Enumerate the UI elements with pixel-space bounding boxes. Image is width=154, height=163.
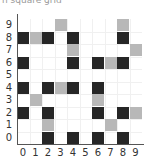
grid-cell-gray: [55, 82, 67, 94]
x-label: 0: [17, 147, 29, 159]
y-label: 1: [4, 119, 14, 131]
y-label: 7: [4, 44, 14, 56]
grid-cell-gray: [130, 107, 142, 119]
x-label: 6: [92, 147, 104, 159]
y-label: 3: [4, 94, 14, 106]
grid-cell-gray: [55, 19, 67, 31]
y-label: 0: [4, 132, 14, 144]
grid-cell-black: [17, 32, 29, 44]
grid-cell-black: [67, 57, 79, 69]
grid-cell-black: [117, 107, 129, 119]
gridline-horizontal: [17, 119, 142, 120]
grid-cell-black: [42, 107, 54, 119]
grid-cell-black: [17, 82, 29, 94]
caption: n square grid: [2, 0, 62, 5]
grid-cell-gray: [105, 119, 117, 131]
grid-cell-black: [42, 32, 54, 44]
grid-cell-black: [117, 57, 129, 69]
grid-cell-gray: [105, 57, 117, 69]
x-label: 7: [105, 147, 117, 159]
gridline-horizontal: [17, 82, 142, 83]
grid-cell-gray: [30, 94, 42, 106]
y-label: 4: [4, 82, 14, 94]
grid-cell-black: [67, 82, 79, 94]
x-label: 8: [117, 147, 129, 159]
grid-cell-gray: [130, 44, 142, 56]
grid-cell-black: [42, 132, 54, 144]
y-label: 2: [4, 107, 14, 119]
grid-cell-black: [17, 57, 29, 69]
grid-cell-black: [117, 132, 129, 144]
grid-cell-black: [92, 82, 104, 94]
x-label: 5: [80, 147, 92, 159]
grid-cell-black: [92, 107, 104, 119]
x-axis-line: [17, 144, 144, 145]
grid-cell-black: [117, 32, 129, 44]
x-label: 3: [55, 147, 67, 159]
grid-cell-black: [67, 32, 79, 44]
grid-cell-black: [67, 132, 79, 144]
grid-cell-black: [92, 57, 104, 69]
x-label: 9: [130, 147, 142, 159]
gridline-horizontal: [17, 44, 142, 45]
grid-cell-gray: [42, 119, 54, 131]
x-label: 2: [42, 147, 54, 159]
x-label: 4: [67, 147, 79, 159]
grid-cell-gray: [67, 44, 79, 56]
y-label: 6: [4, 57, 14, 69]
y-axis-line: [17, 14, 18, 145]
y-label: 9: [4, 19, 14, 31]
grid-cell-black: [17, 107, 29, 119]
grid-cell-black: [42, 82, 54, 94]
gridline-horizontal: [17, 69, 142, 70]
y-label: 8: [4, 32, 14, 44]
x-label: 1: [30, 147, 42, 159]
grid-cell-gray: [92, 94, 104, 106]
square-grid: [17, 19, 142, 144]
grid-cell-black: [92, 132, 104, 144]
grid-cell-gray: [30, 32, 42, 44]
y-label: 5: [4, 69, 14, 81]
grid-cell-gray: [117, 19, 129, 31]
